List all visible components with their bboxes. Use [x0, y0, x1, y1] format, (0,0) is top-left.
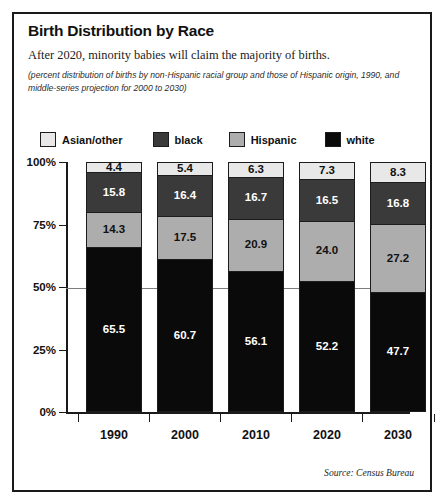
- bar-1990: 4.415.814.365.5: [86, 162, 142, 412]
- x-tick-label-2030: 2030: [363, 428, 433, 442]
- bar-segment-value: 6.3: [248, 164, 264, 176]
- bar-segment-white: 65.5: [86, 248, 142, 412]
- y-tick-mark: [59, 287, 66, 288]
- legend-item-hispanic: Hispanic: [229, 132, 297, 147]
- bar-segment-value: 5.4: [177, 163, 193, 175]
- bar-segment-value: 60.7: [174, 330, 196, 342]
- bar-segment-value: 15.8: [103, 187, 125, 199]
- bar-segment-white: 60.7: [157, 260, 213, 412]
- bar-segment-value: 4.4: [106, 162, 122, 173]
- bar-segment-asian-other: 4.4: [86, 162, 142, 173]
- y-tick-mark: [59, 225, 66, 226]
- bar-segment-hispanic: 27.2: [370, 225, 426, 293]
- bar-segment-value: 14.3: [103, 224, 125, 236]
- chart-figure: Birth Distribution by Race After 2020, m…: [12, 12, 432, 492]
- bar-2020: 7.316.524.052.2: [299, 162, 355, 412]
- x-tick-label-2000: 2000: [150, 428, 220, 442]
- bar-segment-value: 56.1: [245, 336, 267, 348]
- bar-segment-white: 52.2: [299, 282, 355, 413]
- legend-swatch-icon: [229, 132, 245, 147]
- bar-segment-black: 16.7: [228, 178, 284, 220]
- legend-swatch-icon: [40, 132, 56, 147]
- chart-legend: Asian/otherblackHispanicwhite: [40, 132, 420, 147]
- bar-segment-value: 17.5: [174, 232, 196, 244]
- bar-segment-value: 65.5: [103, 324, 125, 336]
- bar-segment-value: 7.3: [319, 165, 335, 177]
- bar-segment-asian-other: 8.3: [370, 162, 426, 183]
- legend-label: Asian/other: [62, 134, 123, 146]
- bar-segment-value: 16.7: [245, 192, 267, 204]
- bar-segment-black: 16.8: [370, 183, 426, 225]
- bar-segment-hispanic: 24.0: [299, 222, 355, 282]
- x-axis-line: [66, 412, 410, 414]
- chart-subtitle: After 2020, minority babies will claim t…: [28, 48, 418, 62]
- x-tick-mark: [291, 414, 292, 422]
- legend-swatch-icon: [325, 132, 341, 147]
- chart-header: Birth Distribution by Race After 2020, m…: [28, 22, 418, 94]
- y-tick-label: 50%: [33, 281, 56, 293]
- bar-segment-value: 16.4: [174, 190, 196, 202]
- bar-segment-value: 16.5: [316, 195, 338, 207]
- legend-item-white: white: [325, 132, 375, 147]
- x-tick-mark: [220, 414, 221, 422]
- bar-segment-asian-other: 5.4: [157, 162, 213, 176]
- page-title: Birth Distribution by Race: [28, 22, 418, 39]
- bar-segment-asian-other: 7.3: [299, 162, 355, 180]
- x-tick-mark: [78, 414, 79, 422]
- bar-2010: 6.316.720.956.1: [228, 162, 284, 412]
- bar-segment-asian-other: 6.3: [228, 162, 284, 178]
- plot-area: 0%25%50%75%100% 4.415.814.365.55.416.417…: [66, 162, 410, 414]
- bar-segment-value: 27.2: [387, 253, 409, 265]
- legend-swatch-icon: [153, 132, 169, 147]
- y-tick-mark: [59, 350, 66, 351]
- y-tick-mark: [59, 162, 66, 163]
- bar-segment-hispanic: 14.3: [86, 213, 142, 249]
- x-tick-label-2010: 2010: [221, 428, 291, 442]
- chart-note: (percent distribution of births by non-H…: [28, 69, 400, 94]
- x-tick-mark: [434, 414, 435, 422]
- bar-segment-value: 52.2: [316, 341, 338, 353]
- bar-segment-hispanic: 20.9: [228, 220, 284, 272]
- bar-segment-value: 47.7: [387, 346, 409, 358]
- bar-segment-value: 24.0: [316, 245, 338, 257]
- bar-segment-value: 8.3: [390, 167, 406, 179]
- bar-2000: 5.416.417.560.7: [157, 162, 213, 412]
- legend-label: white: [347, 134, 375, 146]
- x-tick-label-2020: 2020: [292, 428, 362, 442]
- y-tick-label: 100%: [27, 156, 56, 168]
- x-tick-mark: [362, 414, 363, 422]
- bar-segment-white: 56.1: [228, 272, 284, 412]
- x-tick-label-1990: 1990: [79, 428, 149, 442]
- bar-segment-hispanic: 17.5: [157, 217, 213, 261]
- legend-label: Hispanic: [251, 134, 297, 146]
- bar-segment-value: 20.9: [245, 239, 267, 251]
- y-tick-label: 75%: [33, 219, 56, 231]
- y-tick-mark: [59, 412, 66, 413]
- legend-item-black: black: [153, 132, 203, 147]
- bar-segment-black: 15.8: [86, 173, 142, 213]
- bar-2030: 8.316.827.247.7: [370, 162, 426, 412]
- bar-segment-value: 16.8: [387, 198, 409, 210]
- legend-label: black: [175, 134, 203, 146]
- bar-segment-black: 16.5: [299, 180, 355, 221]
- x-tick-mark: [149, 414, 150, 422]
- legend-item-asian-other: Asian/other: [40, 132, 123, 147]
- y-tick-label: 25%: [33, 344, 56, 356]
- bar-segment-black: 16.4: [157, 176, 213, 217]
- bar-segment-white: 47.7: [370, 293, 426, 412]
- source-note: Source: Census Bureau: [324, 467, 414, 478]
- y-tick-label: 0%: [39, 406, 56, 418]
